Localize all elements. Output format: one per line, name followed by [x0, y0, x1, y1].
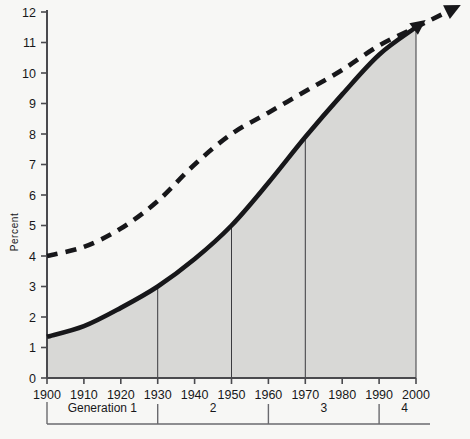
x-tick-label-1930: 1930: [144, 388, 172, 402]
x-tick-label-1980: 1980: [328, 388, 356, 402]
x-tick-label-1920: 1920: [107, 388, 135, 402]
y-tick-label-7: 7: [29, 158, 36, 172]
y-tick-label-0: 0: [29, 372, 36, 386]
chart-svg: 0123456789101112 19001910192019301940195…: [0, 0, 470, 439]
y-tick-label-12: 12: [22, 6, 36, 20]
y-tick-label-4: 4: [29, 250, 36, 264]
x-tick-label-2000: 2000: [402, 388, 430, 402]
y-tick-label-10: 10: [22, 67, 36, 81]
x-tick-label-1900: 1900: [33, 388, 61, 402]
y-tick-label-3: 3: [29, 280, 36, 294]
y-tick-label-5: 5: [29, 219, 36, 233]
x-tick-label-1910: 1910: [70, 388, 98, 402]
y-tick-label-9: 9: [29, 97, 36, 111]
generation-label-2: 2: [210, 401, 217, 415]
y-tick-label-11: 11: [23, 36, 36, 50]
x-tick-label-1950: 1950: [218, 388, 246, 402]
y-tick-label-8: 8: [29, 128, 36, 142]
x-tick-label-1990: 1990: [365, 388, 393, 402]
y-tick-label-6: 6: [29, 189, 36, 203]
chart-figure: 0123456789101112 19001910192019301940195…: [0, 0, 470, 439]
generation-label-3: 3: [320, 401, 327, 415]
y-tick-label-1: 1: [29, 341, 36, 355]
x-tick-label-1960: 1960: [254, 388, 282, 402]
x-tick-label-1970: 1970: [291, 388, 319, 402]
generation-label-4: 4: [401, 401, 408, 415]
x-tick-label-1940: 1940: [181, 388, 209, 402]
y-tick-label-2: 2: [29, 311, 36, 325]
y-axis-title: Percent: [9, 213, 20, 252]
generation-label-1: Generation 1: [68, 401, 138, 415]
